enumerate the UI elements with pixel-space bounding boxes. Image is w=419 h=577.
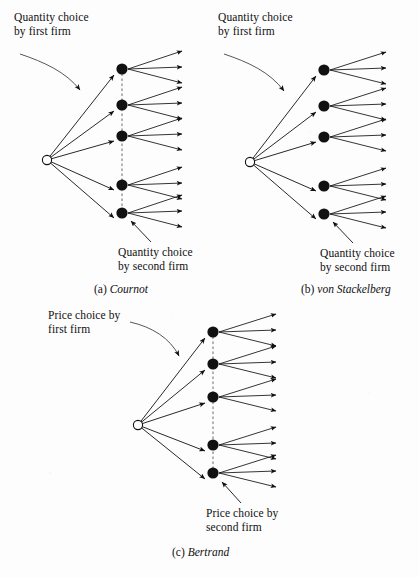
caption-letter: (a) xyxy=(94,283,107,295)
label-line-2: by second firm xyxy=(118,259,193,273)
stackelberg-second-firm-label: Quantity choice by second firm xyxy=(320,246,395,274)
caption-name: von Stackelberg xyxy=(317,283,390,295)
label-line-1: Quantity choice xyxy=(14,10,89,24)
panel-cournot: Quantity choice by first firm Quantity c… xyxy=(0,0,210,300)
second-firm-annotation-arrow xyxy=(333,222,353,243)
caption-bertrand: (c) Bertrand xyxy=(172,546,229,558)
cournot-second-firm-label: Quantity choice by second firm xyxy=(118,245,193,273)
bertrand-second-firm-label: Price choice by second firm xyxy=(206,506,278,534)
caption-cournot: (a) Cournot xyxy=(94,283,148,295)
caption-von-stackelberg: (b) von Stackelberg xyxy=(301,283,391,295)
caption-letter: (c) xyxy=(172,546,185,558)
stackelberg-first-firm-label: Quantity choice by first firm xyxy=(218,10,293,38)
first-firm-annotation-arrow xyxy=(20,54,80,90)
panel-von-stackelberg: Quantity choice by first firm Quantity c… xyxy=(210,0,419,300)
label-line-1: Price choice by xyxy=(48,308,120,322)
label-line-2: second firm xyxy=(206,520,278,534)
root-node xyxy=(133,420,142,429)
second-firm-decision-nodes xyxy=(318,64,329,219)
label-line-1: Quantity choice xyxy=(218,10,293,24)
root-node xyxy=(245,157,254,166)
label-line-2: by first firm xyxy=(14,24,89,38)
first-firm-annotation-arrow xyxy=(130,322,179,356)
caption-name: Cournot xyxy=(110,283,148,295)
label-line-1: Quantity choice xyxy=(118,245,193,259)
bertrand-first-firm-label: Price choice by first firm xyxy=(48,308,120,336)
root-node xyxy=(42,155,51,164)
caption-name: Bertrand xyxy=(188,546,230,558)
second-firm-annotation-arrow xyxy=(222,482,241,503)
caption-letter: (b) xyxy=(301,283,314,295)
panel-bertrand: Price choice by first firm Price choice … xyxy=(0,300,419,577)
label-line-1: Price choice by xyxy=(206,506,278,520)
game-tree-figure: Quantity choice by first firm Quantity c… xyxy=(0,0,419,577)
label-line-2: by first firm xyxy=(218,24,293,38)
bertrand-tree-graphic xyxy=(0,300,419,577)
label-line-2: by second firm xyxy=(320,260,395,274)
second-firm-annotation-arrow xyxy=(131,221,151,242)
label-line-2: first firm xyxy=(48,322,120,336)
cournot-first-firm-label: Quantity choice by first firm xyxy=(14,10,89,38)
first-firm-annotation-arrow xyxy=(224,54,284,91)
label-line-1: Quantity choice xyxy=(320,246,395,260)
